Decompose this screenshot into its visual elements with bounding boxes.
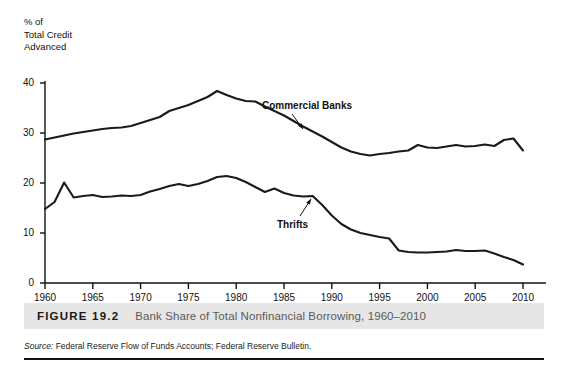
figure-source: Source: Federal Reserve Flow of Funds Ac… [24, 341, 311, 351]
x-tick-label: 1985 [264, 292, 304, 303]
y-tick-label: 10 [8, 227, 34, 238]
y-tick-label: 20 [8, 177, 34, 188]
source-prefix: Source: [24, 341, 53, 351]
y-tick-label: 30 [8, 127, 34, 138]
x-tick-label: 1975 [168, 292, 208, 303]
x-tick-label: 2000 [407, 292, 447, 303]
figure-caption-band: FIGURE 19.2 Bank Share of Total Nonfinan… [24, 303, 544, 329]
x-tick-label: 1980 [216, 292, 256, 303]
y-tick-label: 40 [8, 77, 34, 88]
x-tick-label: 2005 [455, 292, 495, 303]
series-annotation-label: Commercial Banks [262, 100, 352, 111]
x-tick-label: 1995 [360, 292, 400, 303]
x-tick-label: 2010 [503, 292, 543, 303]
source-text: Federal Reserve Flow of Funds Accounts; … [53, 341, 311, 351]
x-tick-label: 1960 [25, 292, 65, 303]
figure-container: % of Total Credit Advanced FIGURE 19.2 B… [0, 0, 568, 374]
series-annotation-label: Thrifts [277, 219, 308, 230]
figure-number: FIGURE 19.2 [37, 310, 119, 322]
bottom-divider [24, 358, 544, 360]
x-tick-label: 1965 [73, 292, 113, 303]
figure-title: Bank Share of Total Nonfinancial Borrowi… [135, 310, 426, 322]
annotation-arrowhead [306, 199, 311, 205]
x-tick-label: 1990 [312, 292, 352, 303]
y-tick-label: 0 [8, 277, 34, 288]
x-tick-label: 1970 [121, 292, 161, 303]
